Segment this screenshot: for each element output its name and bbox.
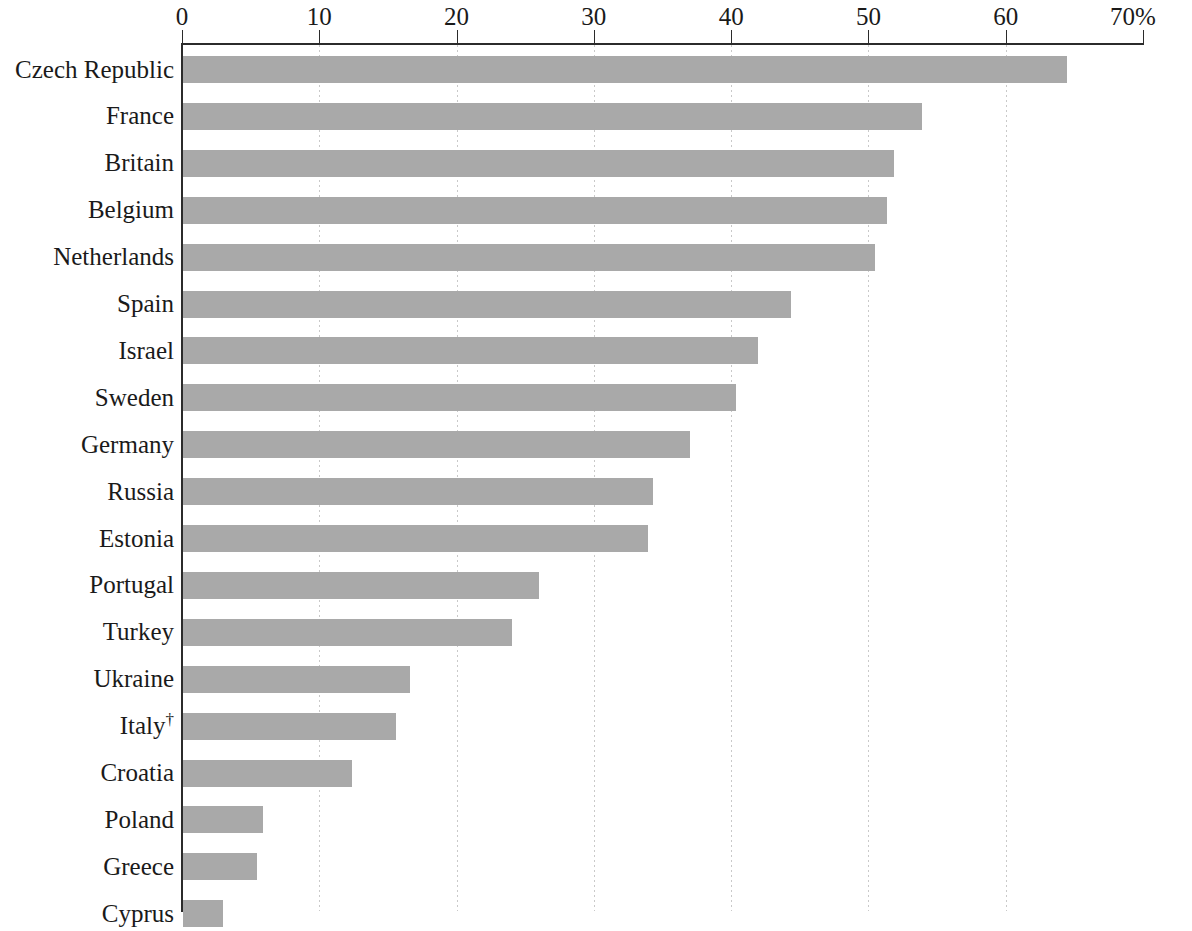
bar-row-label: Estonia — [99, 524, 174, 551]
bar-row: Germany — [0, 431, 1192, 458]
bar — [183, 244, 875, 271]
bar-row: Ukraine — [0, 666, 1192, 693]
bar-row: Poland — [0, 806, 1192, 833]
bar-row-label: Belgium — [88, 196, 174, 223]
bar-row-label: Netherlands — [53, 243, 174, 270]
x-axis-line — [182, 43, 1144, 45]
bar-row: Italy† — [0, 713, 1192, 740]
bar — [183, 619, 512, 646]
x-tick-70 — [1143, 30, 1144, 43]
bar-row-label: Turkey — [103, 618, 174, 645]
bar-row: Britain — [0, 150, 1192, 177]
bar-row-label: Sweden — [95, 384, 174, 411]
bar-row-label: Portugal — [89, 571, 174, 598]
bar-row: Portugal — [0, 572, 1192, 599]
bar-row-label: Poland — [105, 806, 174, 833]
x-tick-10 — [319, 30, 320, 43]
x-tick-label-20: 20 — [444, 4, 469, 29]
x-tick-label-60: 60 — [993, 4, 1018, 29]
bar-row: Turkey — [0, 619, 1192, 646]
bar — [183, 337, 758, 364]
x-tick-label-10: 10 — [307, 4, 332, 29]
bar-row-label: Britain — [105, 149, 174, 176]
bar-row: Russia — [0, 478, 1192, 505]
footnote-dagger-marker: † — [166, 710, 175, 729]
bar — [183, 478, 653, 505]
bar-row-label: Ukraine — [93, 665, 174, 692]
bar — [183, 56, 1067, 83]
bar — [183, 197, 887, 224]
bar-row-label: Russia — [107, 478, 174, 505]
bar — [183, 525, 648, 552]
bar — [183, 572, 539, 599]
bar-row: Estonia — [0, 525, 1192, 552]
bar — [183, 384, 736, 411]
bar — [183, 431, 690, 458]
bar-row: Spain — [0, 291, 1192, 318]
x-tick-label-70: 70% — [1110, 4, 1156, 29]
bar-row-label: Czech Republic — [15, 55, 174, 82]
bar — [183, 150, 894, 177]
bar-chart: 010203040506070% Czech RepublicFranceBri… — [0, 0, 1192, 931]
bar-row-label: Israel — [118, 337, 174, 364]
bar-row: Netherlands — [0, 244, 1192, 271]
bar — [183, 760, 352, 787]
bar-row: Sweden — [0, 384, 1192, 411]
x-tick-40 — [731, 30, 732, 43]
x-tick-label-0: 0 — [176, 4, 189, 29]
x-tick-label-40: 40 — [719, 4, 744, 29]
bar-row: Greece — [0, 853, 1192, 880]
x-tick-label-30: 30 — [581, 4, 606, 29]
bar — [183, 291, 791, 318]
bar-row-label: Spain — [117, 290, 174, 317]
x-tick-50 — [868, 30, 869, 43]
bar — [183, 806, 263, 833]
bar-row-label: Italy† — [120, 712, 174, 739]
bar-row: Belgium — [0, 197, 1192, 224]
bar-row-label: Greece — [103, 853, 174, 880]
x-tick-label-50: 50 — [856, 4, 881, 29]
bar — [183, 103, 922, 130]
bar — [183, 853, 257, 880]
bar-row-label: Croatia — [100, 759, 174, 786]
bar-row: Cyprus — [0, 900, 1192, 927]
x-tick-0 — [182, 30, 183, 43]
x-tick-30 — [594, 30, 595, 43]
bar-row-label: Cyprus — [102, 900, 174, 927]
x-tick-20 — [457, 30, 458, 43]
bar — [183, 713, 396, 740]
bar-row-label: France — [106, 102, 174, 129]
bar-row: France — [0, 103, 1192, 130]
x-tick-60 — [1006, 30, 1007, 43]
bar — [183, 666, 410, 693]
bar-row: Croatia — [0, 760, 1192, 787]
bar-row: Israel — [0, 337, 1192, 364]
bar-row: Czech Republic — [0, 56, 1192, 83]
bar-row-label: Germany — [81, 431, 174, 458]
bar — [183, 900, 223, 927]
